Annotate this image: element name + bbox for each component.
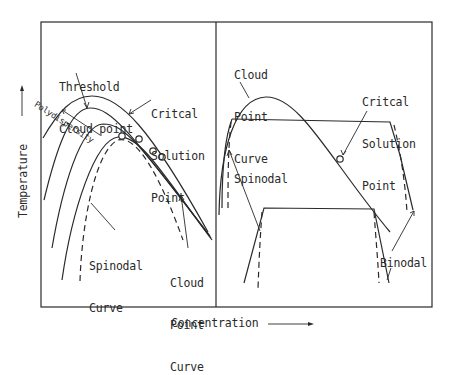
- left-critical-label: Critcal Solution Point: [151, 79, 205, 233]
- up-arrow-icon: [20, 85, 24, 91]
- left-cloud-label-line1: Cloud: [170, 276, 204, 290]
- spinodal-curve-label-line1: Spinodal: [89, 259, 143, 273]
- right-spinodal-label: Spinodal: [234, 172, 288, 186]
- y-axis-label: Temperature: [16, 144, 30, 218]
- right-cloud-label-line1: Cloud: [234, 68, 268, 82]
- left-critical-label-line1: Critcal: [151, 107, 205, 121]
- right-cloud-label-line2: Point: [234, 110, 268, 124]
- right-cloud-point-label: Cloud Point Curve: [234, 40, 268, 194]
- threshold-label-line1: Threshold: [59, 80, 133, 94]
- right-critical-point-marker: [337, 156, 343, 162]
- threshold-label: Threshold Cloud point: [59, 52, 133, 164]
- right-critical-label-line3: Point: [362, 179, 416, 193]
- left-cloud-point-label: Cloud Point Curve: [170, 248, 204, 375]
- critical-point-marker: [136, 136, 142, 142]
- right-cloud-label-line3: Curve: [234, 152, 268, 166]
- binodal-label: Binodal: [380, 256, 427, 270]
- left-critical-label-line2: Solution: [151, 149, 205, 163]
- left-critical-label-line3: Point: [151, 191, 205, 205]
- spinodal-curve-label-line2: Curve: [89, 301, 143, 315]
- x-axis-label: Concentration: [171, 316, 258, 330]
- right-critical-label-line1: Critcal: [362, 95, 416, 109]
- spinodal-pointer: [91, 203, 115, 230]
- right-arrow-icon: [308, 322, 314, 326]
- right-critical-label: Critcal Solution Point: [362, 67, 416, 221]
- left-cloud-label-line3: Curve: [170, 360, 204, 374]
- spinodal-curve-label: Spinodal Curve: [89, 231, 143, 343]
- right-critical-label-line2: Solution: [362, 137, 416, 151]
